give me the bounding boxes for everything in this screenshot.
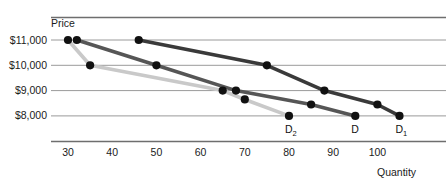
x-tick-label: 50	[136, 147, 176, 158]
series-label-text: D	[285, 123, 293, 135]
y-tick-label: $9,000	[0, 85, 47, 96]
x-tick-label: 40	[92, 147, 132, 158]
axis-lines	[51, 18, 446, 142]
series-label-subscript: 2	[293, 129, 297, 138]
x-axis-title: Quantity	[377, 166, 416, 178]
data-point-marker	[263, 61, 271, 69]
x-tick-label: 100	[357, 147, 397, 158]
series-label-d2: D2	[285, 124, 297, 138]
data-point-markers	[64, 36, 404, 120]
data-point-marker	[86, 61, 94, 69]
data-point-marker	[135, 36, 143, 44]
y-tick-label: $8,000	[0, 110, 47, 121]
y-tick-label: $11,000	[0, 35, 47, 46]
x-tick-label: 30	[48, 147, 88, 158]
series-line-d1	[139, 40, 400, 116]
data-series	[68, 40, 400, 116]
series-label-subscript: 1	[403, 129, 407, 138]
series-line-d2	[68, 40, 289, 116]
x-tick-label: 90	[313, 147, 353, 158]
data-point-marker	[64, 36, 72, 44]
y-axis-title: Price	[51, 17, 75, 29]
x-tick-label: 80	[269, 147, 309, 158]
data-point-marker	[152, 61, 160, 69]
data-point-marker	[307, 100, 315, 108]
series-label-text: D	[396, 123, 404, 135]
data-point-marker	[395, 112, 403, 120]
data-point-marker	[73, 36, 81, 44]
series-label-d: D	[351, 124, 359, 135]
demand-curve-chart: Price Quantity $8,000$9,000$10,000$11,00…	[0, 0, 448, 184]
x-tick-label: 70	[225, 147, 265, 158]
data-point-marker	[373, 100, 381, 108]
data-point-marker	[232, 87, 240, 95]
data-point-marker	[351, 112, 359, 120]
data-point-marker	[285, 112, 293, 120]
data-point-marker	[320, 87, 328, 95]
series-label-d1: D1	[396, 124, 408, 138]
series-label-text: D	[351, 123, 359, 135]
y-tick-label: $10,000	[0, 60, 47, 71]
data-point-marker	[241, 95, 249, 103]
x-tick-label: 60	[181, 147, 221, 158]
data-point-marker	[219, 87, 227, 95]
